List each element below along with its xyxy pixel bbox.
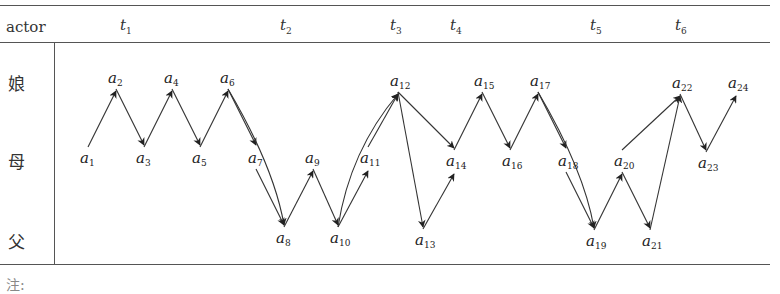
edge-a8-a9: [284, 171, 313, 227]
edge-a4-a5: [172, 89, 200, 145]
edge-a7-a8: [256, 169, 284, 225]
node-a10: a10: [330, 229, 351, 248]
node-a1: a1: [80, 149, 95, 168]
edge-a21-a22: [650, 96, 680, 230]
edge-a14-a15: [454, 94, 482, 150]
footer-note: 注:: [6, 274, 25, 294]
edge-a17-a18: [538, 92, 566, 148]
node-a18: a18: [558, 152, 579, 171]
node-a2: a2: [108, 69, 123, 88]
edges: [88, 89, 736, 230]
node-a12: a12: [390, 72, 410, 91]
node-a20: a20: [614, 152, 635, 171]
node-a19: a19: [586, 232, 607, 251]
edge-a13-a14: [423, 174, 454, 229]
node-a22: a22: [672, 74, 692, 93]
edge-a9-a10: [313, 169, 338, 225]
node-a8: a8: [276, 229, 291, 248]
node-a4: a4: [164, 69, 179, 88]
edge-a12-a13: [398, 92, 423, 227]
edge-a18-a19: [566, 172, 594, 228]
node-a5: a5: [192, 149, 207, 168]
node-a15: a15: [474, 72, 495, 91]
node-a6: a6: [220, 69, 235, 88]
node-a21: a21: [642, 232, 662, 251]
edge-a6-a7: [228, 89, 256, 145]
node-a9: a9: [305, 149, 320, 168]
edge-a1-a2: [88, 91, 116, 147]
edge-a20-a22: [622, 96, 680, 150]
node-a11: a11: [360, 149, 380, 168]
edge-a3-a4: [144, 91, 172, 147]
node-a24: a24: [728, 74, 749, 93]
edge-a23-a24: [706, 96, 736, 152]
node-a13: a13: [415, 231, 436, 250]
node-a3: a3: [136, 149, 151, 168]
edge-a5-a6: [200, 91, 228, 147]
edge-a19-a20: [594, 174, 622, 230]
edge-a15-a16: [482, 92, 510, 148]
edge-a11-a12: [368, 94, 398, 147]
node-a14: a14: [446, 152, 467, 171]
edge-a20-a21: [622, 172, 650, 228]
node-a16: a16: [502, 152, 523, 171]
edge-a22-a23: [680, 94, 706, 150]
edge-a10-a11: [338, 171, 368, 227]
edge-a16-a17: [510, 94, 538, 150]
node-a17: a17: [530, 72, 551, 91]
edge-a2-a3: [116, 89, 144, 145]
node-a23: a23: [698, 154, 719, 173]
